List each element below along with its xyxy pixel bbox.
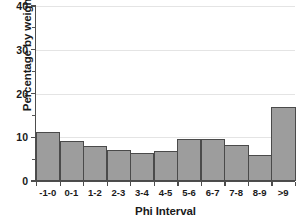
x-axis-tick — [177, 182, 178, 186]
x-axis-tick — [83, 182, 84, 186]
y-axis-tick-label: 20 — [0, 89, 28, 99]
y-axis-tick-label: 40 — [0, 1, 28, 11]
x-axis-tick — [60, 182, 61, 186]
y-axis-minor-tick — [32, 27, 36, 28]
x-axis-tick — [107, 182, 108, 186]
y-axis-tick-label: 30 — [0, 45, 28, 55]
y-axis-minor-tick — [32, 71, 36, 72]
x-axis-tick — [271, 182, 272, 186]
y-axis-minor-tick — [32, 115, 36, 116]
y-axis-tick — [31, 93, 36, 94]
x-axis-title: Phi Interval — [36, 205, 295, 217]
y-axis-title: Percentage by weight — [20, 0, 34, 129]
bar — [36, 132, 60, 181]
x-axis-line — [35, 181, 295, 182]
bar — [83, 146, 107, 181]
bar — [177, 139, 201, 181]
bar — [224, 145, 248, 181]
bar — [271, 107, 295, 181]
y-axis-tick-label: 10 — [0, 132, 28, 142]
y-axis-tick — [31, 5, 36, 6]
x-axis-tick — [36, 182, 37, 186]
plot-area — [36, 6, 295, 181]
bar — [248, 155, 272, 181]
x-axis-tick — [248, 182, 249, 186]
y-axis-minor-tick — [32, 159, 36, 160]
x-axis-tick — [295, 182, 296, 186]
y-axis-tick — [31, 49, 36, 50]
bar — [130, 153, 154, 181]
gridline — [36, 50, 295, 51]
bar — [60, 141, 84, 181]
y-axis-tick — [31, 137, 36, 138]
y-axis-tick-label: 0 — [0, 176, 28, 186]
gridline — [36, 137, 295, 138]
x-axis-tick — [201, 182, 202, 186]
bar-chart: Percentage by weight Phi Interval 010203… — [0, 0, 301, 224]
x-axis-tick — [224, 182, 225, 186]
gridline — [36, 94, 295, 95]
x-axis-tick-label: >9 — [268, 187, 298, 198]
x-axis-tick — [130, 182, 131, 186]
bar — [201, 139, 225, 181]
x-axis-tick — [154, 182, 155, 186]
gridline — [36, 6, 295, 7]
bar — [107, 150, 131, 181]
bar — [154, 151, 178, 181]
